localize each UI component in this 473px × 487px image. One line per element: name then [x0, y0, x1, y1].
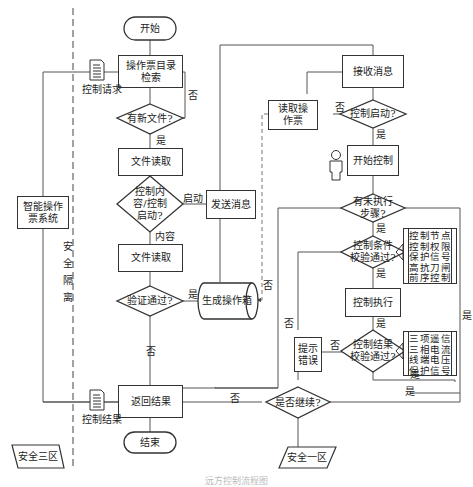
person-icon [330, 151, 342, 181]
no-label-control-start: 否 [335, 102, 345, 114]
continue-label: 是否继续? [266, 387, 330, 418]
isolation-label: 安 全 隔 离 [62, 238, 74, 306]
no-label-result-check: 否 [330, 340, 340, 352]
has-new-file-label: 有新文件? [117, 104, 183, 134]
control-request-label: 控制请求 [82, 84, 122, 96]
document-icon [90, 390, 104, 410]
no-label-new-file: 否 [188, 90, 198, 102]
file-read-box-1: 文件读取 [118, 148, 183, 176]
control-result-label: 控制结果 [82, 414, 122, 426]
content-or-start-label: 控制内容/控制启动? [117, 176, 183, 232]
control-execute-box: 控制执行 [345, 288, 401, 317]
yes-label-execute: 是 [376, 318, 386, 330]
yes-label-condition: 是 [376, 268, 386, 280]
condition-items-note: 控制节点 控制权限 保护信号 高抗刀闸 前序控制 [403, 228, 457, 284]
no-label-verify: 否 [146, 346, 156, 358]
no-label-return: 否 [230, 393, 240, 405]
yes-label-control-start: 是 [376, 129, 386, 141]
yes-label-right-loop: 是 [462, 310, 472, 322]
no-label-condition: 否 [284, 318, 294, 330]
content-branch-label: 内容 [155, 231, 175, 243]
send-message-box: 发送消息 [206, 190, 256, 219]
start-label: 开始 [124, 17, 176, 40]
read-ticket-box: 读取操作票 [268, 100, 318, 130]
figure-caption: 远方控制流程图 [0, 474, 473, 487]
condition-check-label: 控制条件校验通过? [341, 236, 405, 268]
zone-one-label: 安全一区 [282, 447, 332, 468]
receive-message-box: 接收消息 [342, 55, 404, 88]
catalog-search-box: 操作票目录检索 [118, 55, 183, 88]
document-icon [90, 60, 104, 80]
smart-system-box: 智能操作票系统 [17, 196, 69, 229]
generate-box-label: 生成操作箱 [200, 283, 254, 319]
start-branch-label: 启动 [183, 193, 203, 205]
zone-three-label: 安全三区 [12, 445, 64, 468]
unexecuted-steps-label: 有未执行步骤? [341, 194, 405, 222]
yes-label-new-file: 是 [156, 135, 166, 147]
yes-label-result-loop: 是 [410, 369, 420, 381]
prompt-error-box: 提示错误 [294, 337, 322, 372]
file-read-box-2: 文件读取 [118, 244, 183, 272]
control-start-label: 控制启动? [340, 100, 406, 128]
yes-label-verify: 是 [188, 289, 198, 301]
yes-label-continue: 是 [405, 386, 415, 398]
start-control-box: 开始控制 [347, 145, 399, 176]
return-result-box: 返回结果 [118, 385, 183, 418]
result-check-label: 控制结果校验通过? [341, 330, 405, 372]
yes-label-unexecuted: 是 [376, 223, 386, 235]
end-label: 结束 [124, 432, 176, 453]
no-label-unexecuted-left: 否 [263, 280, 273, 292]
verify-pass-label: 验证通过? [117, 286, 183, 316]
